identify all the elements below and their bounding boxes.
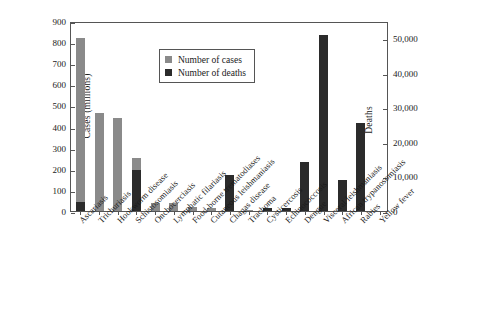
- y-tick-label-right: 40,000: [393, 75, 418, 85]
- y-tick-label-right: 30,000: [393, 109, 418, 119]
- x-axis-labels: AscariasisTrichuriasisHookworm diseaseSc…: [70, 216, 400, 316]
- y-tick-label-left: 800: [53, 44, 67, 54]
- y-tick-label-left: 400: [53, 129, 67, 139]
- bar-cases[interactable]: [76, 38, 85, 211]
- bar-group[interactable]: [277, 23, 296, 211]
- y-tick-mark-left: [71, 213, 75, 214]
- bar-group[interactable]: [90, 23, 109, 211]
- legend-item-cases: Number of cases: [165, 53, 246, 66]
- y-tick-label-left: 100: [53, 192, 67, 202]
- bar-group[interactable]: [333, 23, 352, 211]
- y-tick-label-right: 50,000: [393, 40, 418, 50]
- legend-swatch-deaths: [165, 69, 172, 76]
- y-tick-label-left: 700: [53, 65, 67, 75]
- legend-label-cases: Number of cases: [178, 55, 242, 65]
- y-tick-label-left: 600: [53, 86, 67, 96]
- legend-label-deaths: Number of deaths: [178, 68, 246, 78]
- y-tick-label-left: 500: [53, 107, 67, 117]
- y-tick-label-left: 900: [53, 23, 67, 33]
- bar-group[interactable]: [127, 23, 146, 211]
- bar-group[interactable]: [295, 23, 314, 211]
- y-tick-label-left: 0: [62, 213, 67, 223]
- y-tick-label-right: 20,000: [393, 144, 418, 154]
- y-tick-label-left: 200: [53, 171, 67, 181]
- chart-figure: Cases (millions) Deaths 0100200300400500…: [0, 0, 477, 319]
- y-tick-label-right: 10,000: [393, 178, 418, 188]
- legend-item-deaths: Number of deaths: [165, 66, 246, 79]
- bar-group[interactable]: [108, 23, 127, 211]
- y-tick-label-left: 300: [53, 150, 67, 160]
- bar-group[interactable]: [71, 23, 90, 211]
- chart-legend: Number of cases Number of deaths: [159, 49, 255, 83]
- legend-swatch-cases: [165, 56, 172, 63]
